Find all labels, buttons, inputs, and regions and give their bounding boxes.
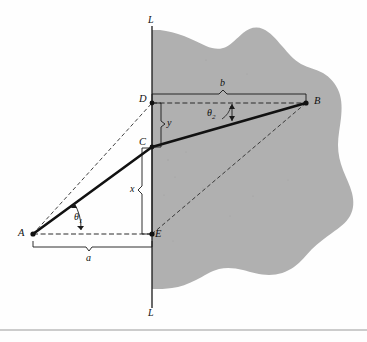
boundary-label-L-top: L <box>148 15 154 25</box>
point-marker-C <box>150 145 155 150</box>
dimension-label-y: y <box>167 118 171 128</box>
point-label-C: C <box>139 137 146 148</box>
angle-label-theta2-subscript: 2 <box>212 113 216 121</box>
point-marker-A <box>30 231 35 236</box>
dimension-label-b: b <box>220 78 225 88</box>
dimension-label-a: a <box>86 253 91 263</box>
dimension-bracket-a <box>33 241 152 251</box>
angle-label-theta2: θ2 <box>207 108 215 121</box>
dimension-bracket-x <box>138 148 150 234</box>
point-marker-E <box>149 231 154 236</box>
point-label-E: E <box>155 229 161 240</box>
angle-label-theta1-subscript: 1 <box>79 217 83 225</box>
point-marker-B <box>303 100 308 105</box>
dimension-label-x: x <box>130 184 134 194</box>
figure-container: L L A B C D E a b x y θ1 θ2 <box>0 0 367 342</box>
point-label-B: B <box>314 96 320 107</box>
angle-label-theta1: θ1 <box>74 212 82 225</box>
point-marker-D <box>150 101 155 106</box>
dashed-line-AD <box>33 103 152 234</box>
boundary-label-L-bottom: L <box>148 308 154 318</box>
geometry-diagram-svg <box>0 0 367 342</box>
point-label-A: A <box>18 228 24 239</box>
shaded-medium-region <box>152 28 353 289</box>
point-label-D: D <box>139 94 147 105</box>
